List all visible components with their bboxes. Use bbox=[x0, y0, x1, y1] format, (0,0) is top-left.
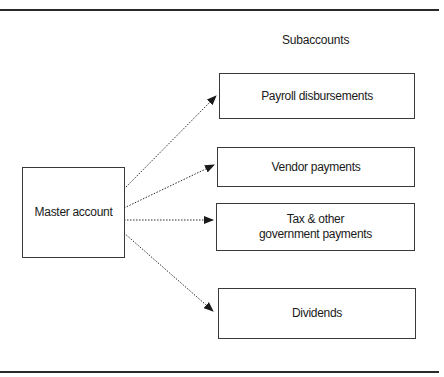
bottom-rule bbox=[0, 371, 439, 373]
arrow-to-dividends bbox=[124, 233, 213, 311]
subaccount-vendor-label: Vendor payments bbox=[272, 160, 361, 175]
master-account-box: Master account bbox=[22, 167, 125, 258]
arrow-to-payroll bbox=[124, 96, 216, 189]
subaccount-payroll-box: Payroll disbursements bbox=[219, 73, 415, 119]
subaccount-payroll-label: Payroll disbursements bbox=[261, 89, 373, 104]
master-account-label: Master account bbox=[35, 205, 113, 220]
subaccount-dividends-box: Dividends bbox=[218, 288, 416, 339]
subaccount-tax-label-line2: government payments bbox=[259, 227, 372, 242]
subaccount-dividends-label: Dividends bbox=[292, 306, 342, 321]
subaccount-tax-box: Tax & other government payments bbox=[216, 203, 415, 251]
subaccount-tax-label-line1: Tax & other bbox=[287, 212, 344, 227]
arrow-to-vendor bbox=[124, 165, 214, 208]
subaccount-vendor-box: Vendor payments bbox=[217, 147, 415, 187]
